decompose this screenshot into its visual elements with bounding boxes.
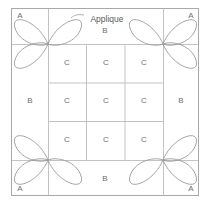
petal-up-right bbox=[48, 20, 82, 46]
petal-down-right bbox=[163, 43, 197, 69]
piece-label-a-bottom-left: A bbox=[17, 185, 22, 193]
petal-down-left bbox=[14, 159, 48, 185]
piece-label-c-r3c3: C bbox=[141, 136, 147, 144]
piece-label-c-r2c1: C bbox=[64, 97, 70, 105]
flower-top-right bbox=[129, 20, 196, 69]
applique-callout-label: Applique bbox=[90, 15, 123, 24]
piece-label-b-left: B bbox=[27, 97, 32, 105]
flower-bottom-left bbox=[14, 136, 81, 185]
piece-label-c-r1c2: C bbox=[103, 59, 109, 67]
petal-up-right bbox=[163, 20, 197, 46]
piece-label-c-r3c1: C bbox=[64, 136, 70, 144]
flower-top-left bbox=[14, 20, 81, 69]
piece-label-c-r1c1: C bbox=[64, 59, 70, 67]
petal-up-right bbox=[163, 136, 197, 162]
piece-label-a-bottom-right: A bbox=[188, 185, 193, 193]
piece-label-a-top-right: A bbox=[188, 12, 193, 20]
piece-label-c-r3c2: C bbox=[103, 136, 109, 144]
piece-label-c-r2c2: C bbox=[103, 97, 109, 105]
flower-bottom-right bbox=[129, 136, 196, 185]
piece-label-b-right: B bbox=[178, 97, 183, 105]
piece-label-b-top: B bbox=[102, 27, 107, 35]
piece-label-b-bottom: B bbox=[102, 175, 107, 183]
petal-up-left bbox=[14, 20, 48, 46]
quilt-block-diagram: Applique A A A A B B B B C C C C C C C C… bbox=[0, 0, 211, 208]
petal-down-left bbox=[14, 43, 48, 69]
petal-up-left bbox=[129, 20, 163, 46]
petal-down-right bbox=[48, 159, 82, 185]
piece-label-c-r1c3: C bbox=[141, 59, 147, 67]
petal-up-left bbox=[14, 136, 48, 162]
petal-down-left bbox=[129, 159, 163, 185]
petal-down-right bbox=[163, 159, 197, 185]
applique-leader-line bbox=[71, 15, 84, 18]
piece-label-c-r2c3: C bbox=[141, 97, 147, 105]
piece-label-a-top-left: A bbox=[17, 12, 22, 20]
